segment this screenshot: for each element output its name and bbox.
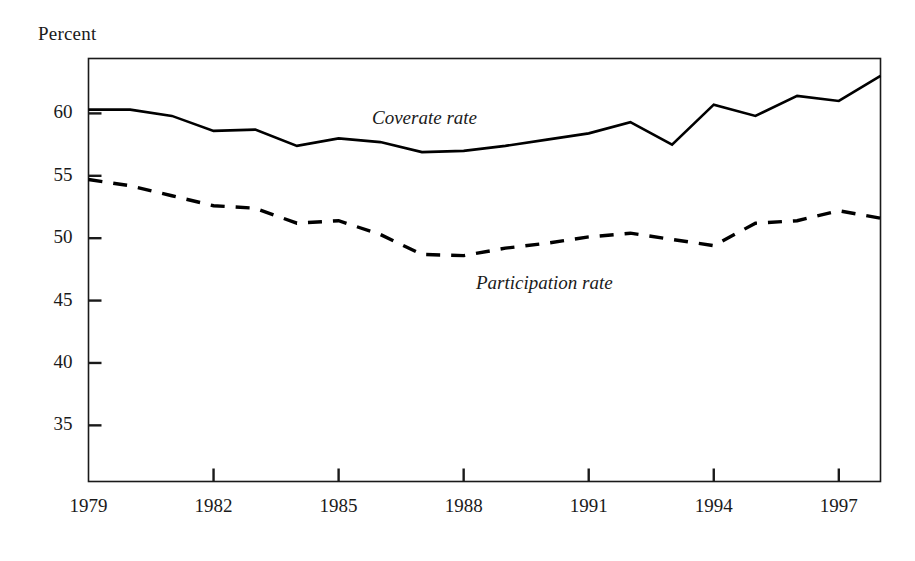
x-tick-label: 1988 [429, 495, 499, 517]
y-tick-label: 50 [29, 226, 73, 248]
plot-frame [89, 59, 881, 482]
data-series-lines [89, 76, 881, 256]
x-tick-label: 1997 [804, 495, 874, 517]
y-tick-label: 40 [29, 351, 73, 373]
y-tick-label: 45 [29, 289, 73, 311]
series-line [89, 76, 881, 152]
x-axis-ticks [214, 469, 839, 482]
y-tick-label: 35 [29, 413, 73, 435]
x-tick-label: 1979 [54, 495, 124, 517]
y-tick-label: 55 [29, 164, 73, 186]
x-tick-label: 1982 [179, 495, 249, 517]
x-tick-label: 1994 [679, 495, 749, 517]
y-tick-label: 60 [29, 101, 73, 123]
plot-area [0, 0, 915, 561]
y-axis-ticks [89, 113, 102, 425]
x-tick-label: 1991 [554, 495, 624, 517]
chart-figure: Percent Coverate rate Participation rate… [0, 0, 915, 561]
x-tick-label: 1985 [304, 495, 374, 517]
series-line [89, 180, 881, 256]
